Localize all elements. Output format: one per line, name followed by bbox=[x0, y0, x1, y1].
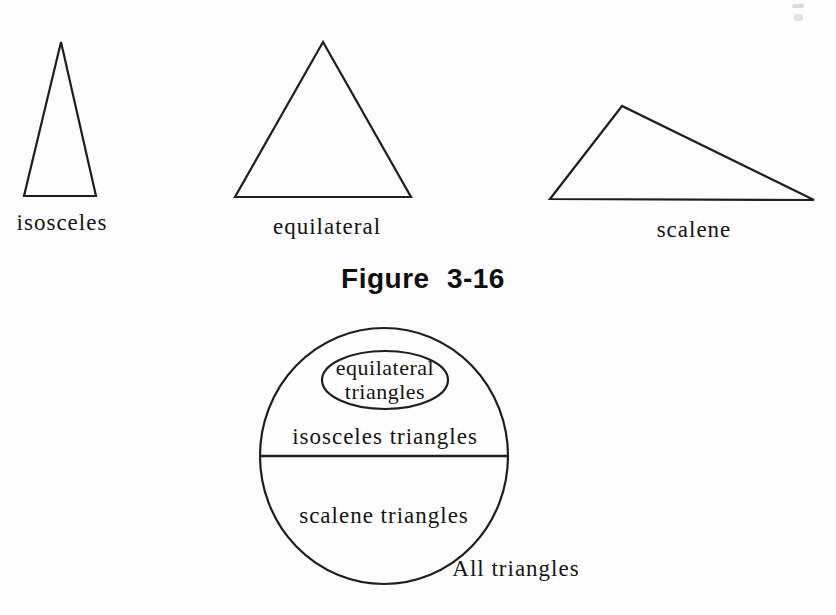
equilateral-triangle-label: equilateral bbox=[273, 215, 381, 239]
figure-page: isosceles equilateral scalene Figure 3-1… bbox=[0, 0, 836, 615]
figure-caption: Figure 3-16 bbox=[341, 263, 505, 295]
venn-inner-label-line2: triangles bbox=[336, 380, 434, 404]
scan-artifact bbox=[794, 14, 803, 21]
scalene-triangle-label: scalene bbox=[657, 218, 732, 242]
scalene-triangle-shape bbox=[550, 106, 814, 200]
isosceles-triangle-shape bbox=[24, 42, 96, 196]
scan-artifact bbox=[792, 4, 804, 9]
venn-lower-region-label: scalene triangles bbox=[299, 504, 469, 528]
venn-outer-label: All triangles bbox=[452, 557, 579, 581]
equilateral-triangle-shape bbox=[235, 42, 411, 197]
venn-inner-label-line1: equilateral bbox=[336, 356, 434, 380]
isosceles-triangle-label: isosceles bbox=[17, 211, 108, 235]
venn-upper-region-label: isosceles triangles bbox=[292, 425, 478, 449]
venn-inner-ellipse-label: equilateral triangles bbox=[336, 356, 434, 404]
